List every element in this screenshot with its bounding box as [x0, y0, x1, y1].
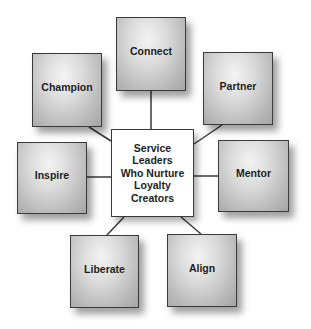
node-label: Liberate — [84, 263, 125, 275]
hub-spoke-diagram: Connect Champion Partner Inspire Mentor … — [0, 0, 311, 329]
center-label-line: Who Nurture — [121, 167, 185, 180]
center-label-line: Loyalty — [134, 179, 171, 192]
node-connect: Connect — [116, 17, 186, 91]
connector-liberate — [107, 217, 124, 235]
node-champion: Champion — [32, 53, 102, 127]
node-label: Partner — [220, 80, 257, 92]
node-label: Champion — [41, 81, 92, 93]
node-label: Connect — [130, 45, 172, 57]
center-node: Service Leaders Who Nurture Loyalty Crea… — [111, 129, 194, 217]
node-label: Align — [189, 262, 215, 274]
node-liberate: Liberate — [70, 235, 139, 308]
node-partner: Partner — [203, 52, 273, 125]
center-label-line: Service — [134, 142, 171, 155]
connector-champion — [89, 127, 111, 141]
connector-align — [181, 217, 201, 234]
node-label: Inspire — [35, 169, 69, 181]
center-label-line: Leaders — [132, 154, 172, 167]
center-label-line: Creators — [131, 192, 174, 205]
node-align: Align — [167, 234, 237, 307]
node-inspire: Inspire — [17, 142, 87, 214]
node-label: Mentor — [236, 167, 271, 179]
node-mentor: Mentor — [218, 140, 289, 212]
